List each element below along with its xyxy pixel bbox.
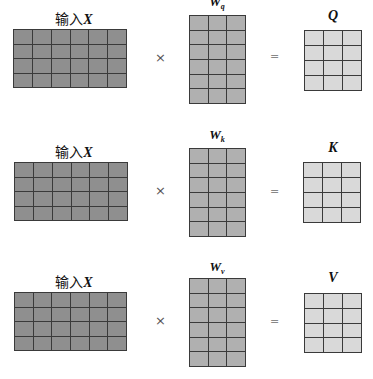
matrix-cell — [109, 192, 127, 206]
matrix-cell — [209, 31, 227, 45]
matrix-cell — [324, 31, 342, 45]
matrix-cell — [190, 352, 208, 366]
matrix-cell — [190, 178, 208, 192]
matrix-cell — [343, 61, 361, 75]
matrix-cell — [209, 149, 227, 163]
matrix-cell — [190, 149, 208, 163]
matrix-cell — [305, 294, 323, 308]
matrix-cell — [72, 163, 90, 177]
output-k-label: K — [318, 140, 348, 156]
matrix-cell — [72, 192, 90, 206]
matrix-cell — [342, 163, 360, 177]
matrix-cell — [209, 222, 227, 236]
weight-wv-label: Wv — [197, 259, 237, 276]
matrix-cell — [33, 74, 51, 88]
input-x-matrix-q-row — [13, 29, 127, 88]
matrix-cell — [324, 294, 342, 308]
matrix-cell — [227, 149, 245, 163]
matrix-cell — [108, 337, 126, 351]
multiply-operator-q-row: × — [155, 50, 166, 65]
matrix-cell — [305, 46, 323, 60]
matrix-cell — [90, 322, 108, 336]
matrix-cell — [52, 30, 70, 44]
weight-label-sub: q — [221, 2, 225, 11]
matrix-cell — [190, 308, 208, 322]
weight-wq-matrix — [189, 15, 246, 104]
matrix-cell — [15, 293, 33, 307]
matrix-cell — [34, 337, 52, 351]
matrix-cell — [108, 30, 126, 44]
matrix-cell — [190, 208, 208, 222]
matrix-cell — [190, 222, 208, 236]
matrix-cell — [90, 163, 108, 177]
matrix-cell — [304, 208, 322, 222]
matrix-cell — [89, 45, 107, 59]
matrix-cell — [209, 294, 227, 308]
matrix-cell — [190, 89, 208, 103]
weight-wk-matrix — [189, 148, 246, 237]
weight-label-sub: k — [221, 135, 225, 144]
matrix-cell — [71, 308, 89, 322]
matrix-cell — [34, 293, 52, 307]
output-label-var: K — [328, 140, 337, 155]
matrix-cell — [190, 75, 208, 89]
matrix-cell — [343, 309, 361, 323]
matrix-cell — [209, 164, 227, 178]
matrix-cell — [52, 293, 70, 307]
matrix-cell — [323, 163, 341, 177]
matrix-cell — [108, 59, 126, 73]
matrix-cell — [209, 323, 227, 337]
matrix-cell — [209, 178, 227, 192]
output-k-matrix — [303, 162, 361, 223]
matrix-cell — [227, 308, 245, 322]
matrix-cell — [14, 74, 32, 88]
output-q-label: Q — [318, 8, 348, 24]
input-x-label-q-row: 输入X — [44, 8, 104, 28]
matrix-cell — [53, 207, 71, 221]
matrix-cell — [227, 164, 245, 178]
matrix-cell — [90, 293, 108, 307]
output-label-var: V — [328, 270, 337, 285]
matrix-cell — [72, 207, 90, 221]
matrix-cell — [227, 352, 245, 366]
matrix-cell — [34, 163, 52, 177]
matrix-cell — [323, 178, 341, 192]
matrix-cell — [305, 338, 323, 352]
matrix-cell — [227, 45, 245, 59]
weight-wv-matrix — [189, 278, 246, 367]
matrix-cell — [305, 61, 323, 75]
matrix-cell — [209, 308, 227, 322]
matrix-cell — [343, 76, 361, 90]
matrix-cell — [323, 193, 341, 207]
matrix-cell — [90, 178, 108, 192]
matrix-cell — [190, 294, 208, 308]
matrix-cell — [90, 207, 108, 221]
matrix-cell — [108, 293, 126, 307]
matrix-cell — [324, 61, 342, 75]
matrix-cell — [190, 323, 208, 337]
matrix-cell — [227, 16, 245, 30]
matrix-cell — [227, 193, 245, 207]
matrix-cell — [15, 163, 33, 177]
matrix-cell — [227, 89, 245, 103]
output-v-matrix — [304, 293, 362, 353]
matrix-cell — [34, 192, 52, 206]
input-label-prefix: 输入 — [55, 145, 83, 160]
matrix-cell — [90, 308, 108, 322]
weight-label-var: W — [209, 259, 221, 274]
matrix-cell — [108, 45, 126, 59]
matrix-cell — [33, 59, 51, 73]
matrix-cell — [71, 337, 89, 351]
matrix-cell — [227, 323, 245, 337]
matrix-cell — [89, 59, 107, 73]
matrix-cell — [190, 193, 208, 207]
matrix-cell — [109, 207, 127, 221]
matrix-cell — [71, 59, 89, 73]
matrix-cell — [14, 59, 32, 73]
matrix-cell — [342, 208, 360, 222]
matrix-cell — [52, 45, 70, 59]
matrix-cell — [209, 352, 227, 366]
matrix-cell — [305, 324, 323, 338]
input-x-label-v-row: 输入X — [44, 271, 104, 291]
matrix-cell — [89, 74, 107, 88]
